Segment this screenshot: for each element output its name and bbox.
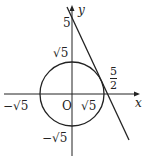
plot-svg bbox=[0, 0, 157, 162]
x-axis-label: x bbox=[135, 97, 142, 109]
y-axis-arrow-icon bbox=[70, 5, 75, 11]
diagram: y 5 √5 5 2 x −√5 O √5 −√5 bbox=[0, 0, 157, 162]
tangent-line bbox=[67, 7, 129, 140]
circle-top-label: √5 bbox=[53, 47, 68, 59]
x-intercept-numerator: 5 bbox=[110, 65, 117, 78]
x-intercept-label: 5 2 bbox=[110, 66, 117, 91]
circle-right-label: √5 bbox=[81, 100, 96, 112]
circle-left-label: −√5 bbox=[3, 100, 28, 112]
circle-bottom-label: −√5 bbox=[42, 132, 67, 144]
y-intercept-label: 5 bbox=[63, 17, 71, 29]
x-intercept-denominator: 2 bbox=[110, 79, 117, 92]
origin-label: O bbox=[62, 100, 72, 112]
y-axis-label: y bbox=[78, 4, 85, 16]
